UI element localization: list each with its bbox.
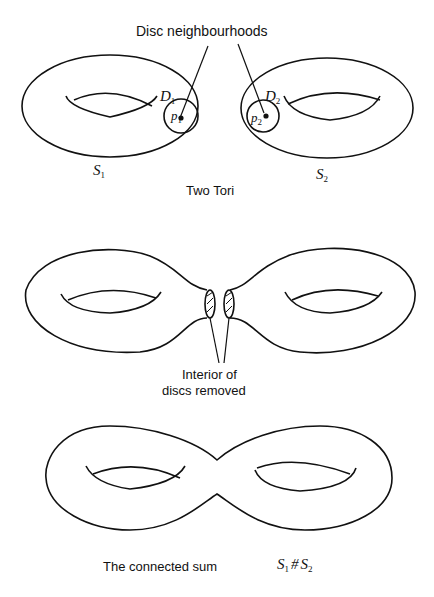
surface-s1-sub: 1 [101,170,106,180]
surface-s2-letter: S [316,166,324,182]
connected-sum-diagram [0,0,434,597]
point-p2-letter: p [251,110,258,125]
formula-s2-letter: S [301,556,309,572]
left-torus-removed [26,250,207,353]
disc-d2-label: D2 [265,88,280,105]
formula-s1-sub: 1 [285,564,290,574]
point-p2-label: p2 [251,110,262,126]
connected-sum-caption: The connected sum [103,559,217,574]
right-torus-removed [230,248,415,352]
double-torus [46,426,392,530]
point-p2-sub: 2 [258,117,263,127]
left-torus [22,55,198,157]
surface-s2-sub: 2 [324,174,329,184]
disc-d2-sub: 2 [276,96,281,106]
disc-d1-sub: 1 [171,96,176,106]
interior-removed-caption-line2: discs removed [162,383,246,398]
disc-d2-letter: D [265,88,276,104]
connected-sum-formula: S1#S2 [277,556,313,573]
disc-d1-label: D1 [160,88,175,105]
formula-s1-letter: S [277,556,285,572]
formula-s2-sub: 2 [308,564,313,574]
connected-sum-operator: # [291,556,299,572]
point-p1-sub: 1 [178,115,183,125]
surface-s1-letter: S [93,162,101,178]
point-p1-letter: p [171,108,178,123]
removed-discs [205,290,234,318]
surface-s1-label: S1 [93,162,105,179]
pointer-lines [180,44,264,118]
right-torus [241,58,413,158]
two-tori-caption: Two Tori [186,183,234,198]
removed-pointers [210,318,229,363]
disc-neighbourhoods-label: Disc neighbourhoods [136,23,268,39]
surface-s2-label: S2 [316,166,328,183]
disc-d1-letter: D [160,88,171,104]
interior-removed-caption-line1: Interior of [182,367,237,382]
point-p1-label: p1 [171,108,182,124]
